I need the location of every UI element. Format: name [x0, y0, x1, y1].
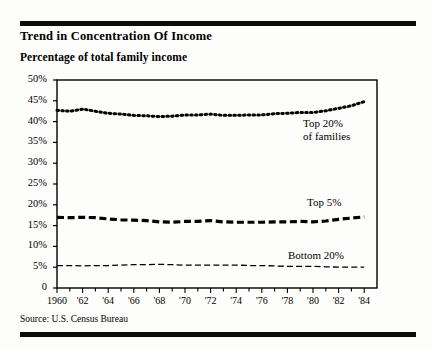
series-line-2: [57, 217, 364, 222]
x-axis-tick-label: '74: [230, 295, 242, 306]
figure-root: Trend in Concentration Of Income Percent…: [0, 0, 432, 349]
plot-area: 05%10%15%20%25%30%35%40%45%50%1960'62'64…: [0, 0, 432, 349]
source-note: Source: U.S. Census Bureau: [20, 314, 128, 324]
x-axis-tick-label: '82: [333, 295, 345, 306]
x-axis-tick-label: '72: [205, 295, 217, 306]
series-annotation-line: of families: [303, 130, 350, 143]
x-axis-tick-label: '80: [307, 295, 319, 306]
y-axis-tick-label: 20%: [7, 198, 47, 209]
series-line-3: [57, 264, 364, 267]
x-axis-tick-label: '70: [179, 295, 191, 306]
y-axis-tick-label: 50%: [7, 73, 47, 84]
x-axis-tick-label: '62: [77, 295, 89, 306]
x-axis-tick-label: '78: [281, 295, 293, 306]
y-axis-tick-label: 45%: [7, 94, 47, 105]
y-axis-tick-label: 15%: [7, 219, 47, 230]
x-axis-tick-label: '66: [128, 295, 140, 306]
bottom-rule: [20, 332, 416, 337]
x-axis-tick-label: '84: [358, 295, 370, 306]
x-axis-tick-label: 1960: [47, 295, 67, 306]
y-axis-tick-label: 25%: [7, 177, 47, 188]
y-axis-tick-label: 35%: [7, 135, 47, 146]
y-axis-tick-label: 40%: [7, 115, 47, 126]
series-annotation-line: Top 5%: [307, 196, 341, 209]
y-axis-tick-label: 0: [7, 281, 47, 292]
series-annotation-3: Bottom 20%: [288, 249, 344, 262]
series-annotation-2: Top 5%: [307, 196, 341, 209]
y-axis-tick-label: 30%: [7, 156, 47, 167]
series-line-1: [57, 102, 364, 117]
x-axis-tick-label: '68: [153, 295, 165, 306]
series-annotation-1: Top 20%of families: [303, 117, 350, 143]
x-axis-tick-label: '64: [102, 295, 114, 306]
y-axis-tick-label: 5%: [7, 260, 47, 271]
x-axis-tick-label: '76: [256, 295, 268, 306]
series-annotation-line: Bottom 20%: [288, 249, 344, 262]
series-annotation-line: Top 20%: [303, 117, 350, 130]
y-axis-tick-label: 10%: [7, 239, 47, 250]
